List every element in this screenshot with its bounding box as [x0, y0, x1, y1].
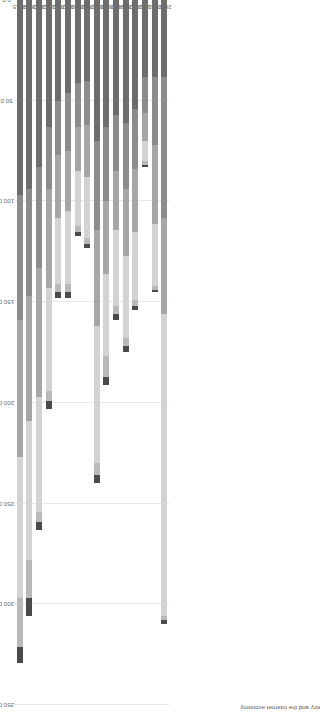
bar-segment[interactable] — [94, 326, 100, 463]
bar-segment[interactable] — [132, 232, 138, 300]
bar-segment[interactable] — [36, 167, 42, 268]
bar-segment[interactable] — [113, 171, 119, 229]
bar-segment[interactable] — [152, 145, 158, 224]
bar-segment[interactable] — [161, 77, 167, 218]
bar-segment[interactable] — [94, 463, 100, 475]
bar-segment[interactable] — [84, 177, 90, 237]
bar-segment[interactable] — [94, 475, 100, 483]
bar-segment[interactable] — [65, 211, 71, 284]
bar-segment[interactable] — [103, 127, 109, 202]
bar-segment[interactable] — [113, 306, 119, 314]
bar-segment[interactable] — [36, 512, 42, 522]
bar-segment[interactable] — [36, 268, 42, 397]
bar-segment[interactable] — [75, 232, 81, 236]
bar-segment[interactable] — [55, 0, 61, 101]
bar-segment[interactable] — [142, 141, 148, 161]
bar-segment[interactable] — [142, 161, 148, 165]
bar-group[interactable] — [113, 0, 119, 705]
bar-segment[interactable] — [132, 169, 138, 231]
bar-segment[interactable] — [26, 296, 32, 421]
bar-segment[interactable] — [142, 165, 148, 167]
bar-segment[interactable] — [123, 256, 129, 339]
bar-segment[interactable] — [94, 230, 100, 327]
bar-segment[interactable] — [75, 0, 81, 83]
bar-segment[interactable] — [103, 274, 109, 357]
bar-group[interactable] — [152, 0, 158, 705]
bar-segment[interactable] — [152, 286, 158, 290]
bar-segment[interactable] — [46, 288, 52, 391]
bar-segment[interactable] — [94, 0, 100, 141]
bar-segment[interactable] — [65, 151, 71, 211]
bar-segment[interactable] — [65, 0, 71, 93]
bar-group[interactable] — [65, 0, 71, 705]
bar-group[interactable] — [103, 0, 109, 705]
bar-segment[interactable] — [103, 356, 109, 376]
bar-segment[interactable] — [75, 226, 81, 232]
bar-segment[interactable] — [55, 292, 61, 298]
bar-segment[interactable] — [36, 522, 42, 530]
bar-segment[interactable] — [123, 0, 129, 123]
bar-group[interactable] — [75, 0, 81, 705]
bar-group[interactable] — [132, 0, 138, 705]
bar-segment[interactable] — [142, 113, 148, 141]
bar-segment[interactable] — [26, 560, 32, 598]
bar-segment[interactable] — [26, 598, 32, 616]
bar-segment[interactable] — [152, 77, 158, 145]
bar-segment[interactable] — [17, 457, 23, 598]
bar-segment[interactable] — [75, 127, 81, 171]
bar-group[interactable] — [94, 0, 100, 705]
bar-segment[interactable] — [17, 647, 23, 663]
bar-segment[interactable] — [84, 0, 90, 81]
bar-segment[interactable] — [55, 284, 61, 292]
bar-segment[interactable] — [132, 109, 138, 169]
bar-segment[interactable] — [123, 338, 129, 346]
bar-segment[interactable] — [152, 224, 158, 286]
bar-segment[interactable] — [152, 290, 158, 292]
bar-segment[interactable] — [161, 616, 167, 620]
bar-segment[interactable] — [17, 320, 23, 457]
bar-segment[interactable] — [123, 123, 129, 189]
bar-segment[interactable] — [132, 0, 138, 109]
bar-segment[interactable] — [103, 0, 109, 127]
bar-segment[interactable] — [46, 127, 52, 189]
bar-segment[interactable] — [113, 230, 119, 307]
bar-segment[interactable] — [46, 0, 52, 127]
bar-segment[interactable] — [123, 189, 129, 255]
bar-segment[interactable] — [132, 300, 138, 306]
bar-group[interactable] — [55, 0, 61, 705]
bar-group[interactable] — [46, 0, 52, 705]
bar-segment[interactable] — [84, 238, 90, 244]
bar-segment[interactable] — [84, 244, 90, 248]
bar-segment[interactable] — [113, 314, 119, 320]
bar-segment[interactable] — [75, 171, 81, 225]
bar-segment[interactable] — [26, 189, 32, 296]
bar-segment[interactable] — [26, 421, 32, 560]
bar-segment[interactable] — [46, 401, 52, 409]
bar-segment[interactable] — [55, 155, 61, 217]
bar-group[interactable] — [26, 0, 32, 705]
bar-segment[interactable] — [46, 391, 52, 401]
bar-segment[interactable] — [161, 314, 167, 616]
bar-segment[interactable] — [161, 620, 167, 624]
bar-segment[interactable] — [55, 218, 61, 284]
bar-segment[interactable] — [75, 83, 81, 127]
bar-segment[interactable] — [113, 0, 119, 115]
bar-segment[interactable] — [132, 306, 138, 310]
bar-group[interactable] — [123, 0, 129, 705]
bar-segment[interactable] — [55, 101, 61, 155]
bar-group[interactable] — [84, 0, 90, 705]
bar-segment[interactable] — [36, 397, 42, 512]
bar-group[interactable] — [142, 0, 148, 705]
bar-segment[interactable] — [26, 0, 32, 189]
bar-segment[interactable] — [161, 218, 167, 315]
bar-segment[interactable] — [84, 125, 90, 177]
bar-segment[interactable] — [142, 77, 148, 113]
bar-segment[interactable] — [94, 141, 100, 230]
bar-segment[interactable] — [84, 81, 90, 125]
bar-segment[interactable] — [103, 201, 109, 274]
bar-segment[interactable] — [123, 346, 129, 352]
bar-segment[interactable] — [46, 189, 52, 288]
bar-segment[interactable] — [113, 115, 119, 171]
bar-segment[interactable] — [36, 0, 42, 167]
bar-group[interactable] — [161, 0, 167, 705]
